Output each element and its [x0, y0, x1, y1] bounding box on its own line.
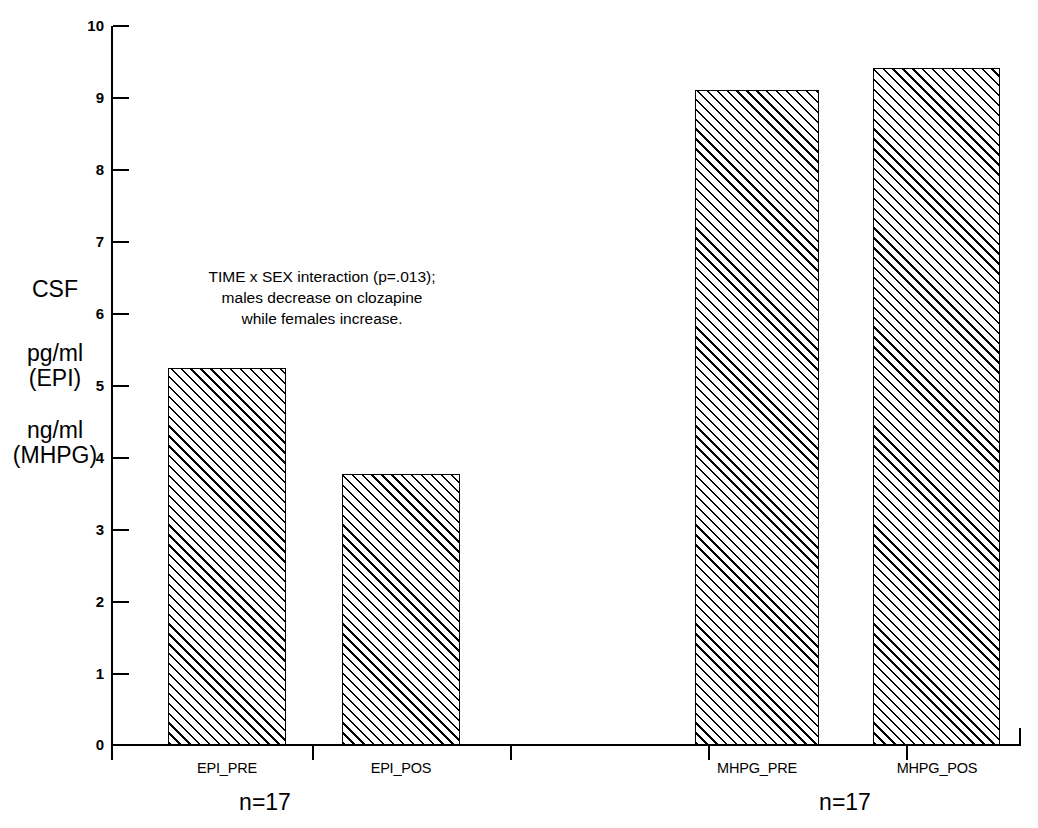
x-label-mhpg-pre: MHPG_PRE — [677, 760, 837, 776]
bar-epi-pos — [342, 474, 460, 745]
group-note-mhpg: n=17 — [765, 789, 925, 816]
y-tick-label-10: 10 — [64, 18, 104, 33]
annotation-line-3: while females increase. — [172, 309, 472, 330]
bar-mhpg-pre — [695, 90, 819, 745]
x-label-epi-pos: EPI_POS — [321, 760, 481, 776]
y-tick-label-9: 9 — [64, 90, 104, 105]
y-tick-label-1: 1 — [64, 666, 104, 681]
y-tick-label-3: 3 — [64, 522, 104, 537]
x-tick-4 — [906, 744, 908, 760]
y-axis-title-ngml: ng/ml — [0, 418, 110, 442]
y-tick-label-7: 7 — [64, 234, 104, 249]
y-tick-1 — [113, 673, 129, 675]
x-tick-0 — [111, 744, 113, 760]
y-tick-8 — [113, 169, 129, 171]
x-label-epi-pre: EPI_PRE — [147, 760, 307, 776]
y-tick-label-6: 6 — [64, 306, 104, 321]
x-tick-1 — [312, 744, 314, 760]
bar-epi-pre — [168, 368, 286, 745]
x-tick-3 — [708, 744, 710, 760]
y-tick-label-0: 0 — [64, 737, 104, 752]
y-tick-6 — [113, 313, 129, 315]
y-axis-title-csf: CSF — [0, 277, 110, 301]
bar-mhpg-pos — [873, 68, 1000, 745]
interaction-annotation: TIME x SEX interaction (p=.013); males d… — [172, 267, 472, 330]
y-axis-title-epi: (EPI) — [0, 366, 110, 390]
x-tick-5 — [1019, 728, 1021, 746]
y-tick-10 — [113, 25, 129, 27]
group-note-epi: n=17 — [185, 789, 345, 816]
annotation-line-2: males decrease on clozapine — [172, 288, 472, 309]
x-label-mhpg-pos: MHPG_POS — [857, 760, 1017, 776]
x-tick-2 — [510, 744, 512, 760]
y-axis-title-mhpg: (MHPG) — [0, 443, 110, 467]
y-tick-label-8: 8 — [64, 162, 104, 177]
y-tick-5 — [113, 385, 129, 387]
annotation-line-1: TIME x SEX interaction (p=.013); — [172, 267, 472, 288]
y-axis-title-pgml: pg/ml — [0, 341, 110, 365]
y-tick-7 — [113, 241, 129, 243]
y-tick-4 — [113, 457, 129, 459]
y-tick-9 — [113, 97, 129, 99]
bar-chart-figure: 10 9 8 7 6 5 4 3 2 1 0 CSF pg/ml (EPI) n… — [0, 0, 1038, 828]
y-tick-label-2: 2 — [64, 594, 104, 609]
y-tick-3 — [113, 529, 129, 531]
y-tick-2 — [113, 601, 129, 603]
